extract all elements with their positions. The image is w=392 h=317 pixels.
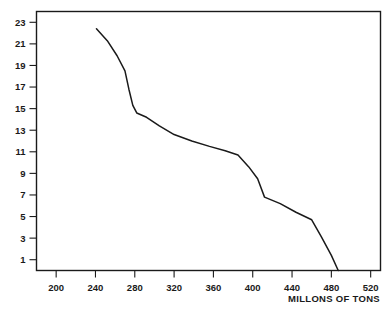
x-tick-label: 360 [205,282,221,293]
x-axis-title: MILLONS OF TONS [288,293,380,304]
x-tick-label: 480 [323,282,339,293]
x-tick-label: 440 [284,282,300,293]
line-chart: 200240280320360400440480520 232119171513… [0,0,392,317]
y-tick-label: 1 [20,254,26,265]
y-tick-label: 21 [15,38,26,49]
x-tick-label: 240 [88,282,104,293]
y-tick-label: 7 [20,189,25,200]
y-tick-label: 9 [20,168,25,179]
y-tick-label: 19 [15,60,26,71]
y-tick-label: 17 [15,81,26,92]
y-tick-label: 23 [15,17,26,28]
y-tick-label: 3 [20,233,25,244]
y-tick-label: 13 [15,125,26,136]
chart-container: 200240280320360400440480520 232119171513… [0,0,392,317]
x-tick-label: 320 [166,282,182,293]
chart-background [0,0,392,317]
x-tick-label: 520 [363,282,379,293]
y-tick-label: 5 [20,211,26,222]
x-axis-tick-labels: 200240280320360400440480520 [48,282,378,293]
x-tick-label: 200 [48,282,64,293]
y-tick-label: 15 [15,103,26,114]
y-tick-label: 11 [15,146,26,157]
x-tick-label: 400 [245,282,261,293]
x-tick-label: 280 [127,282,143,293]
